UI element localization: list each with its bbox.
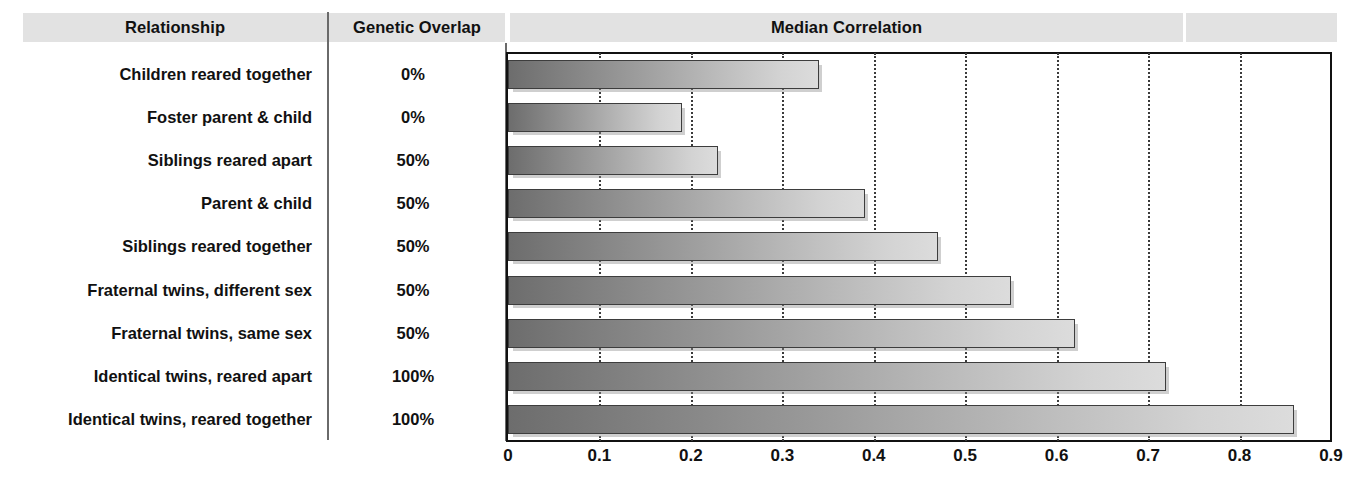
x-tick-0.8: 0.8 [1210, 446, 1270, 466]
row-label-relationship: Foster parent & child [0, 96, 312, 139]
header-band-median-correlation-right [1186, 13, 1337, 42]
bar-row [508, 398, 1331, 441]
column-divider-relationship [327, 12, 329, 440]
row-label-relationship: Fraternal twins, different sex [0, 269, 312, 312]
row-value-genetic-overlap: 100% [333, 355, 493, 398]
row-value-genetic-overlap: 50% [333, 312, 493, 355]
x-tick-0.1: 0.1 [569, 446, 629, 466]
x-tick-0: 0 [478, 446, 538, 466]
x-tick-0.4: 0.4 [844, 446, 904, 466]
x-tick-0.2: 0.2 [661, 446, 721, 466]
row-value-genetic-overlap: 50% [333, 225, 493, 268]
bar-median-correlation [508, 319, 1075, 348]
bar-row [508, 53, 1331, 96]
row-label-relationship: Parent & child [0, 182, 312, 225]
row-value-genetic-overlap: 100% [333, 398, 493, 441]
x-tick-0.7: 0.7 [1118, 446, 1178, 466]
column-header-median-correlation: Median Correlation [510, 13, 1183, 42]
row-value-genetic-overlap: 0% [333, 96, 493, 139]
bar-median-correlation [508, 60, 819, 89]
row-value-genetic-overlap: 0% [333, 53, 493, 96]
row-label-relationship: Siblings reared apart [0, 139, 312, 182]
bar-row [508, 225, 1331, 268]
bar-median-correlation [508, 103, 682, 132]
bar-median-correlation [508, 189, 865, 218]
x-tick-0.9: 0.9 [1301, 446, 1359, 466]
bar-row [508, 355, 1331, 398]
bar-median-correlation [508, 405, 1294, 434]
row-value-genetic-overlap: 50% [333, 182, 493, 225]
row-value-genetic-overlap: 50% [333, 139, 493, 182]
bar-row [508, 312, 1331, 355]
x-tick-0.3: 0.3 [752, 446, 812, 466]
bar-median-correlation [508, 146, 718, 175]
genetics-correlation-chart: Relationship Genetic Overlap Median Corr… [0, 0, 1359, 490]
row-label-relationship: Identical twins, reared apart [0, 355, 312, 398]
bar-row [508, 139, 1331, 182]
bar-median-correlation [508, 276, 1011, 305]
bar-row [508, 182, 1331, 225]
row-label-relationship: Children reared together [0, 53, 312, 96]
row-label-relationship: Identical twins, reared together [0, 398, 312, 441]
bar-median-correlation [508, 362, 1166, 391]
row-label-relationship: Siblings reared together [0, 225, 312, 268]
bar-row [508, 269, 1331, 312]
column-header-genetic-overlap: Genetic Overlap [329, 13, 505, 42]
bar-median-correlation [508, 232, 938, 261]
plot-area [508, 53, 1331, 441]
row-label-relationship: Fraternal twins, same sex [0, 312, 312, 355]
x-tick-0.5: 0.5 [935, 446, 995, 466]
bar-row [508, 96, 1331, 139]
row-value-genetic-overlap: 50% [333, 269, 493, 312]
x-tick-0.6: 0.6 [1027, 446, 1087, 466]
column-header-relationship: Relationship [23, 13, 327, 42]
